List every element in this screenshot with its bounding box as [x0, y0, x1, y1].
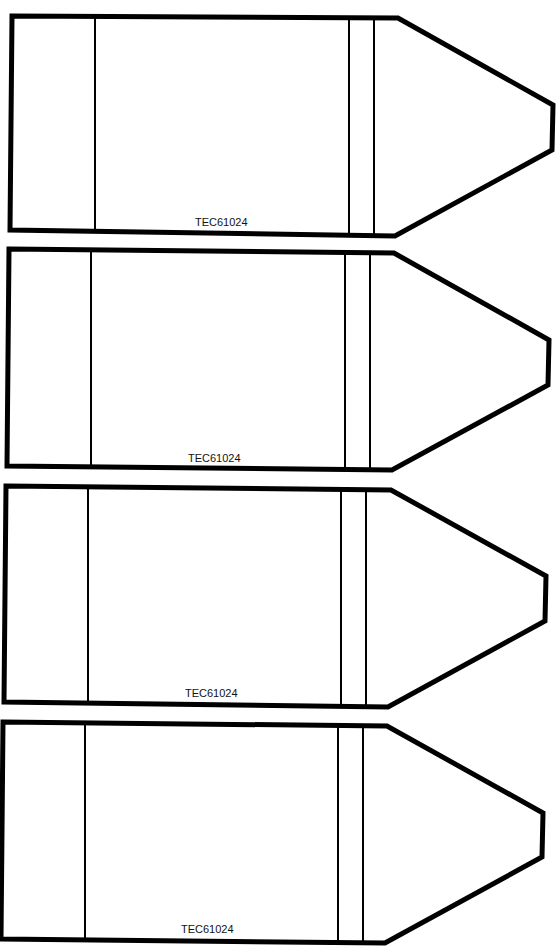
crayon-outline	[4, 486, 546, 707]
crayon-2: TEC61024	[7, 249, 549, 470]
crayon-label: TEC61024	[195, 216, 248, 228]
crayon-outline	[10, 16, 553, 236]
crayon-label: TEC61024	[181, 923, 234, 935]
crayon-1: TEC61024	[10, 16, 553, 236]
crayon-outline	[1, 722, 543, 943]
crayon-label: TEC61024	[185, 687, 238, 699]
crayon-outline	[7, 249, 549, 470]
crayon-label: TEC61024	[188, 452, 241, 464]
crayon-template-sheet: TEC61024 TEC61024 TEC61024 TEC61024	[0, 0, 558, 947]
crayon-4: TEC61024	[1, 722, 543, 943]
crayon-3: TEC61024	[4, 486, 546, 707]
